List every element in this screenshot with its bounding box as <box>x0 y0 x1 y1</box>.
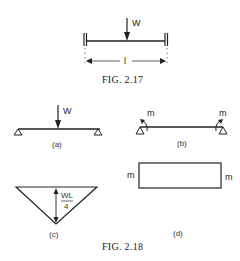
sublabel: (c) <box>49 230 59 239</box>
moment-label-left: m <box>147 108 155 118</box>
bmd-rectangle <box>139 163 221 188</box>
fig-2-18-b: m m (b) <box>136 108 227 148</box>
fixed-support-left-icon <box>84 33 87 46</box>
value-denominator: 4 <box>64 202 69 211</box>
fig-2-18-c: WL 4 (c) <box>16 187 97 239</box>
fig-2-18-d: m m (d) <box>127 163 233 238</box>
fixed-support-right-icon <box>165 33 168 46</box>
point-load-arrow-icon <box>55 105 61 129</box>
sublabel: (a) <box>52 140 62 149</box>
figure-caption: FIG. 2.18 <box>102 241 143 252</box>
pin-support-left-icon <box>136 127 144 134</box>
pin-support-right-icon <box>219 127 227 134</box>
length-label: l <box>124 56 126 66</box>
moment-label-right: m <box>225 172 233 182</box>
point-load-arrow-icon <box>124 18 130 41</box>
pin-support-right-icon <box>94 129 102 135</box>
max-moment-arrow-icon <box>54 188 59 223</box>
moment-label-right: m <box>219 108 227 118</box>
load-label: W <box>63 106 72 116</box>
moment-label-left: m <box>127 170 135 180</box>
fig-2-18-a: W (a) <box>14 105 102 149</box>
value-numerator: WL <box>61 191 74 200</box>
pin-support-left-icon <box>14 129 22 135</box>
sublabel: (b) <box>177 139 187 148</box>
load-label: W <box>132 18 141 28</box>
fig-2-17: W l FIG. 2.17 <box>84 18 168 85</box>
diagram-canvas: W l FIG. 2.17 W (a) m m ( <box>0 0 240 261</box>
figure-caption: FIG. 2.17 <box>102 74 143 85</box>
sublabel: (d) <box>173 229 183 238</box>
